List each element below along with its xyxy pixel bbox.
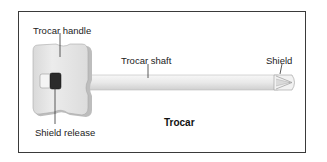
diagram-title: Trocar	[164, 118, 195, 128]
trocar-shaft	[84, 75, 278, 90]
shield-release-label: Shield release	[35, 128, 95, 138]
shield-tip	[274, 75, 295, 90]
trocar-handle-label: Trocar handle	[33, 26, 91, 36]
shield-release-button	[40, 73, 61, 89]
trocar-shaft-label: Trocar shaft	[121, 56, 171, 66]
shield-label: Shield	[266, 56, 292, 66]
